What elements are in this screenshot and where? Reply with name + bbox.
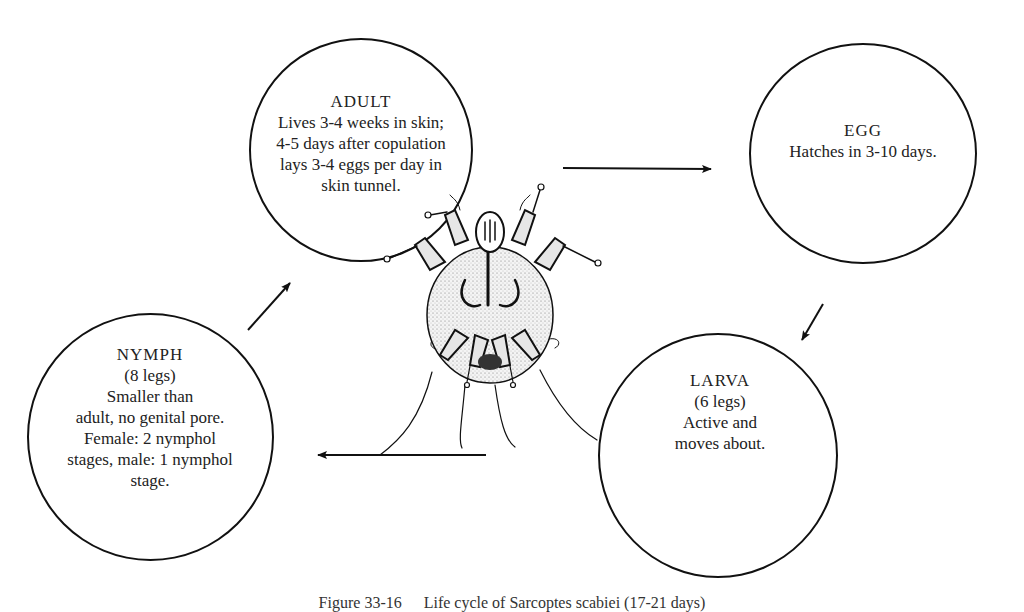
scabies-mite-illustration-icon	[380, 184, 601, 455]
figure-number: Figure 33-16	[319, 594, 402, 611]
figure-caption-text: Life cycle of Sarcoptes scabiei (17-21 d…	[424, 594, 706, 611]
arrow-adult-to-egg-icon	[563, 168, 711, 169]
arrow-egg-to-larva-icon	[802, 304, 823, 340]
figure-caption: Figure 33-16Life cycle of Sarcoptes scab…	[0, 594, 1024, 612]
arrow-nymph-to-adult-icon	[248, 283, 290, 330]
